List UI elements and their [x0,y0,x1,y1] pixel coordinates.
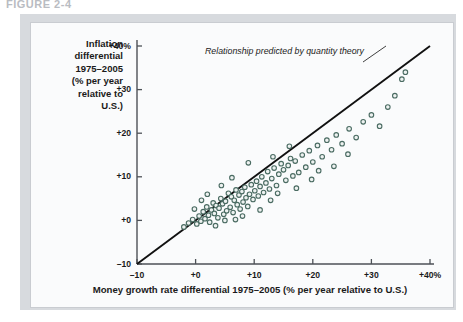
data-point [281,168,286,173]
data-point [256,194,261,199]
data-point [329,147,334,152]
data-point [206,213,211,218]
data-point [269,176,274,181]
data-point [223,199,228,204]
data-point [346,152,351,157]
data-point [182,225,187,230]
data-point [277,172,282,177]
data-point [268,198,273,203]
data-point [199,198,204,203]
data-point [212,211,217,216]
data-point [288,156,293,161]
data-point [254,179,259,184]
data-point [201,209,206,214]
data-point [230,175,235,180]
data-point [190,217,195,222]
data-point [223,218,228,223]
data-point [240,214,245,219]
data-point [340,141,345,146]
data-point [258,208,263,213]
data-point [216,215,221,220]
data-point [272,166,277,171]
data-point [241,200,246,205]
data-point [261,190,266,195]
data-point [325,138,330,143]
data-point [234,188,239,193]
data-point [347,127,352,132]
data-point [197,214,202,219]
data-point [252,188,257,193]
data-point [232,198,237,203]
y-tick-label: +0 [97,215,131,225]
data-point [386,105,391,110]
scatter-plot: Inflation differential 1975–2005 (% per … [0,0,463,322]
data-point [320,154,325,159]
data-point [311,160,316,165]
data-point [332,164,337,169]
data-point [265,169,270,174]
data-point [293,159,298,164]
data-point [316,168,321,173]
plot-canvas [0,0,463,322]
x-tick-label: +0 [176,270,216,280]
x-tick-label: +30 [351,270,391,280]
data-point [274,183,279,188]
data-point [246,161,251,166]
data-point [315,143,320,148]
figure-root: FIGURE 2-4 Inflation differential 1975–2… [0,0,463,322]
data-point [400,77,405,82]
y-tick-label: –10 [97,259,131,269]
data-point [393,93,398,98]
y-tick-label: +10 [97,171,131,181]
x-tick-label: +40% [410,270,450,280]
data-point [213,223,218,228]
x-tick-label: –10 [117,270,157,280]
data-point [403,70,408,75]
y-tick-label: +30 [97,84,131,94]
data-point [233,217,238,222]
data-point [228,205,233,210]
reference-line [137,46,430,264]
data-point [219,183,224,188]
data-point [267,187,272,192]
data-point [207,220,212,225]
data-point [260,175,265,180]
data-point [377,124,382,129]
data-point [238,207,243,212]
data-point [361,120,366,125]
data-point [303,165,308,170]
y-tick-label: +20 [97,128,131,138]
data-point [275,191,280,196]
x-tick-label: +20 [293,270,333,280]
data-point [291,174,296,179]
data-point [286,163,291,168]
data-point [247,192,252,197]
data-point [243,185,248,190]
data-point [235,202,240,207]
data-point [251,197,256,202]
data-point [354,135,359,140]
data-point [300,153,305,158]
data-point [284,178,289,183]
data-point [204,205,209,210]
data-point [205,192,210,197]
y-tick-label: +40% [97,41,131,51]
data-point [294,186,299,191]
annotation-leader-line [363,46,386,62]
data-point [186,221,191,226]
data-point [369,113,374,118]
data-point [249,182,254,187]
data-point [231,210,236,215]
data-point [219,196,224,201]
data-point [309,177,314,182]
data-point [258,184,263,189]
data-point [279,161,284,166]
data-point [240,189,245,194]
data-point [264,181,269,186]
data-point [307,148,312,153]
data-point [271,154,276,159]
data-point [334,133,339,138]
data-point [287,144,292,149]
data-point [217,206,222,211]
data-point [296,170,301,175]
